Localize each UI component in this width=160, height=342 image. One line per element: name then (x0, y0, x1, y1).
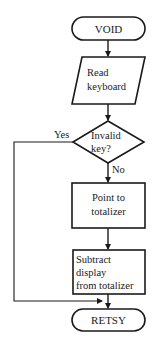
subtract-label-line-1: Subtract (76, 254, 111, 266)
no-edge-label: No (112, 164, 125, 176)
decision-label-line-1: Invalid (91, 130, 121, 142)
subtract-label-line-3: from totalizer (76, 280, 133, 292)
start-terminal-label: VOID (72, 23, 145, 35)
subtract-label-line-2: display (76, 267, 106, 279)
read-label-line-2: keyboard (87, 81, 126, 93)
decision-label-line-2: key? (91, 143, 111, 155)
read-label-line-1: Read (87, 67, 109, 79)
decision-diamond-shape (73, 121, 144, 163)
point-label-line-1: Point to (72, 192, 145, 204)
yes-edge-label: Yes (54, 129, 69, 141)
point-label-line-2: totalizer (72, 206, 145, 218)
end-terminal-label: RETSY (72, 314, 145, 326)
